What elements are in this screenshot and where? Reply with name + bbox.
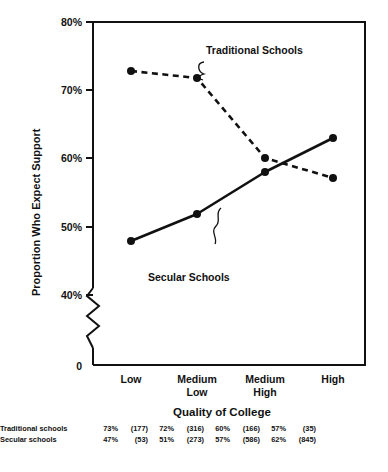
secular-n-medium-low: (273) <box>174 435 204 446</box>
traditional-n-medium-low: (316) <box>174 424 204 435</box>
y-axis-break-icon <box>87 288 99 348</box>
table-row-label-traditional: Traditional schools <box>0 424 92 435</box>
traditional-point-low <box>127 67 135 75</box>
traditional-n-low: (177) <box>118 424 148 435</box>
secular-pct-medium-low: 51% <box>148 435 174 446</box>
annotation-traditional-schools: Traditional Schools <box>199 44 303 80</box>
y-axis-ticks <box>86 22 93 295</box>
x-tick-label-high: High <box>321 373 344 385</box>
y-tick-label-zero: 0 <box>76 360 82 372</box>
secular-n-medium-high: (586) <box>230 435 260 446</box>
traditional-n-medium-high: (166) <box>230 424 260 435</box>
table-row-label-secular: Secular schools <box>0 435 92 446</box>
chart-figure: 80% 70% 60% 50% 40% 0 Proportion Who Exp… <box>0 0 388 472</box>
secular-point-medium-low <box>193 210 201 218</box>
series-traditional-schools <box>127 67 337 182</box>
x-tick-label-low: Low <box>121 373 143 385</box>
x-tick-label-medium-low-line2: Low <box>187 386 209 398</box>
secular-point-low <box>127 237 135 245</box>
x-axis-title: Quality of College <box>173 406 271 418</box>
traditional-pct-high: 57% <box>260 424 286 435</box>
x-tick-label-medium-high-line1: Medium <box>245 373 285 385</box>
secular-n-low: (53) <box>118 435 148 446</box>
traditional-point-medium-high <box>261 154 269 162</box>
secular-pct-medium-high: 57% <box>204 435 230 446</box>
table-row: Traditional schools 73% (177) 72% (316) … <box>0 424 316 435</box>
traditional-schools-line <box>131 71 333 178</box>
leader-line-secular <box>214 208 221 244</box>
x-axis-tick-labels: Low Medium Low Medium High High <box>121 373 345 398</box>
traditional-pct-medium-low: 72% <box>148 424 174 435</box>
traditional-n-high: (35) <box>286 424 316 435</box>
y-axis-title: Proportion Who Expect Support <box>30 128 42 296</box>
secular-pct-low: 47% <box>92 435 118 446</box>
secular-n-high: (845) <box>286 435 316 446</box>
series-secular-schools <box>127 134 337 245</box>
traditional-pct-low: 73% <box>92 424 118 435</box>
y-tick-label-60: 60% <box>61 152 83 164</box>
x-tick-label-medium-high-line2: High <box>253 386 276 398</box>
table-row: Secular schools 47% (53) 51% (273) 57% (… <box>0 435 316 446</box>
y-tick-label-80: 80% <box>61 16 83 28</box>
y-tick-label-40: 40% <box>61 289 83 301</box>
y-tick-label-70: 70% <box>61 84 83 96</box>
secular-point-high <box>329 134 337 142</box>
secular-point-medium-high <box>261 168 269 176</box>
annotation-traditional-schools-label: Traditional Schools <box>206 44 303 56</box>
secular-pct-high: 62% <box>260 435 286 446</box>
line-chart-canvas: 80% 70% 60% 50% 40% 0 Proportion Who Exp… <box>0 0 388 472</box>
traditional-point-high <box>329 174 337 182</box>
y-tick-label-50: 50% <box>61 221 83 233</box>
summary-data-table: Traditional schools 73% (177) 72% (316) … <box>0 424 388 445</box>
annotation-secular-schools-label: Secular Schools <box>148 271 230 283</box>
secular-schools-line <box>131 138 333 241</box>
annotation-secular-schools: Secular Schools <box>148 208 230 283</box>
x-tick-label-medium-low-line1: Medium <box>177 373 217 385</box>
y-axis-tick-labels: 80% 70% 60% 50% 40% 0 <box>61 16 83 372</box>
traditional-pct-medium-high: 60% <box>204 424 230 435</box>
